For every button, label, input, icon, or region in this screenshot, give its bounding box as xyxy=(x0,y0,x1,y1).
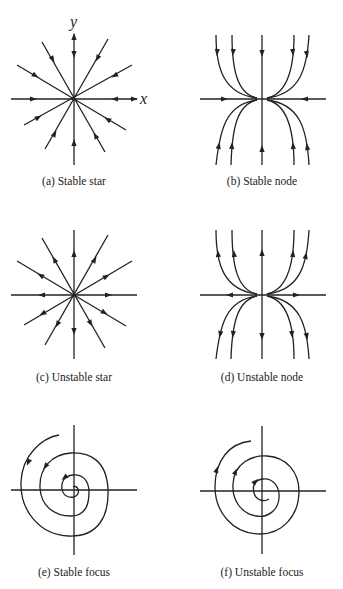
x-axis-label: x xyxy=(139,90,147,107)
spiral-trajectory xyxy=(215,441,299,534)
spiral-trajectory xyxy=(21,435,108,536)
node-trajectories xyxy=(200,230,326,359)
caption-c: (c) Unstable star xyxy=(36,371,112,384)
caption-a: (a) Stable star xyxy=(42,175,106,188)
caption-e: (e) Stable focus xyxy=(38,566,111,579)
caption-f: (f) Unstable focus xyxy=(220,566,304,579)
caption-b: (b) Stable node xyxy=(227,175,297,188)
equilibrium-point xyxy=(72,293,75,296)
axes xyxy=(200,426,326,554)
panel-f-unstable-focus xyxy=(200,426,326,554)
phase-portrait-figure: y x (a) Stable star xyxy=(0,0,343,589)
panel-e-stable-focus xyxy=(11,425,137,555)
panel-c-unstable-star xyxy=(11,230,137,359)
panel-b-stable-node xyxy=(200,35,326,165)
y-axis-label: y xyxy=(68,13,78,31)
equilibrium-point xyxy=(72,97,75,100)
panel-a-stable-star xyxy=(11,33,138,165)
spiral-arrows xyxy=(213,465,260,485)
panel-d-unstable-node xyxy=(200,230,326,359)
spiral-arrows xyxy=(24,458,68,482)
caption-d: (d) Unstable node xyxy=(221,371,303,384)
